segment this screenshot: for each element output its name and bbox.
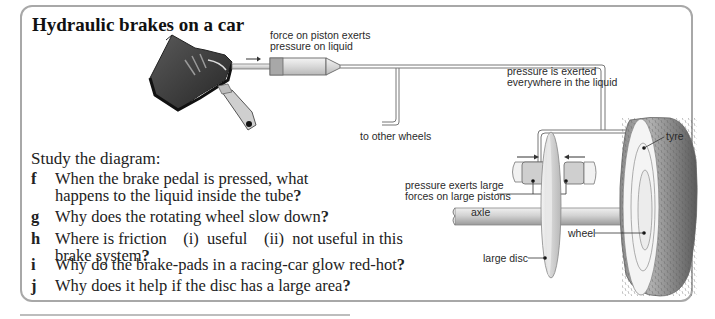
intro-text: Study the diagram:: [31, 149, 160, 169]
question-letter: j: [31, 277, 51, 294]
question-mark: ?: [342, 276, 350, 295]
question-mark: ?: [397, 255, 405, 274]
force-arrow-icon: [246, 57, 261, 62]
label-tyre: tyre: [666, 131, 684, 142]
question-letter: g: [31, 208, 51, 225]
label-pressure-everywhere-line2: everywhere in the liquid: [507, 77, 617, 88]
foot-on-pedal-icon: [150, 35, 256, 130]
question-text-line: Why does the rotating wheel slow down: [55, 207, 321, 226]
label-axle: axle: [471, 207, 490, 218]
label-wheel: wheel: [568, 228, 595, 239]
question-letter: f: [31, 170, 51, 187]
question-text-line: Why do the brake-pads in a racing-car gl…: [55, 255, 397, 274]
label-piston-force-line2: pressure on liquid: [270, 41, 353, 52]
question-text-line: happens to the liquid inside the tube: [55, 186, 293, 205]
question-letter: i: [31, 256, 51, 273]
disc-icon: [541, 132, 561, 278]
question-text-line: Why does it help if the disc has a large…: [55, 276, 342, 295]
bottom-divider: [20, 314, 350, 316]
question-mark: ?: [321, 207, 329, 226]
label-large-disc: large disc: [483, 253, 528, 264]
question-mark: ?: [293, 186, 301, 205]
tyre-icon: [620, 117, 697, 296]
label-to-other-wheels: to other wheels: [360, 131, 431, 142]
question-letter: h: [31, 230, 51, 247]
label-large-pistons-line2: forces on large pistons: [405, 191, 511, 202]
master-cylinder-icon: [232, 58, 340, 75]
